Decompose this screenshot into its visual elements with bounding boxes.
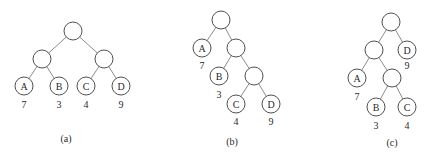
internal-node [95, 50, 113, 68]
figure-caption-a: (a) [60, 133, 71, 145]
tree-edge [259, 84, 267, 97]
tree-edge [379, 58, 387, 71]
leaf-weight-label: 9 [269, 116, 274, 127]
figure-caption-b: (b) [226, 136, 238, 148]
tree-edge [241, 56, 249, 69]
leaf-symbol-label: C [83, 81, 90, 92]
tree-edge [47, 67, 54, 79]
tree-edge [91, 66, 99, 78]
leaf-weight-label: 7 [200, 60, 205, 71]
tree-edge [29, 66, 37, 78]
tree-edge [49, 37, 67, 53]
leaf-weight-label: 9 [405, 60, 410, 71]
leaf-weight-label: 7 [22, 99, 27, 110]
tree-edge [225, 28, 232, 40]
leaf-weight-label: 3 [374, 120, 379, 131]
huffman-trees-figure: ABCDABCDDABC 7349(a)7349(b)9734(c) [0, 0, 433, 155]
leaf-symbol-label: A [353, 73, 361, 84]
internal-node [245, 67, 263, 85]
leaf-symbol-label: B [373, 102, 380, 113]
tree-a-nodes: ABCD [15, 22, 130, 95]
leaf-symbol-label: D [267, 99, 274, 110]
leaf-symbol-label: D [117, 81, 124, 92]
leaf-symbol-label: D [403, 45, 410, 56]
leaf-weight-label: 4 [84, 99, 89, 110]
leaf-symbol-label: B [216, 71, 223, 82]
internal-node [365, 41, 383, 59]
internal-node [383, 69, 401, 87]
tree-b-edges [207, 27, 266, 96]
leaf-weight-label: 7 [355, 91, 360, 102]
leaf-weight-label: 4 [234, 116, 239, 127]
tree-c-edges [362, 30, 403, 99]
tree-edge [224, 56, 232, 69]
internal-node [212, 11, 230, 29]
leaf-weight-label: 9 [119, 99, 124, 110]
tree-edge [379, 30, 387, 43]
tree-edge [395, 30, 402, 42]
leaf-symbol-label: B [56, 81, 63, 92]
tree-edge [396, 86, 403, 99]
leaf-symbol-label: A [20, 81, 28, 92]
leaf-symbol-label: A [198, 43, 206, 54]
leaf-weight-label: 4 [405, 120, 410, 131]
leaf-symbol-label: C [233, 99, 240, 110]
tree-edge [207, 27, 216, 40]
leaf-weight-label: 3 [217, 89, 222, 100]
figure-caption-c: (c) [386, 137, 397, 149]
internal-node [33, 50, 51, 68]
tree-b-nodes: ABCD [193, 11, 280, 113]
tree-edge [380, 86, 387, 99]
tree-edge [109, 67, 116, 79]
leaf-symbol-label: C [404, 102, 411, 113]
internal-node [382, 13, 400, 31]
tree-edge [80, 37, 98, 53]
tree-edge [241, 84, 249, 97]
tree-edge [362, 58, 370, 71]
internal-node [64, 22, 82, 40]
leaf-weight-label: 3 [57, 99, 62, 110]
internal-node [227, 39, 245, 57]
